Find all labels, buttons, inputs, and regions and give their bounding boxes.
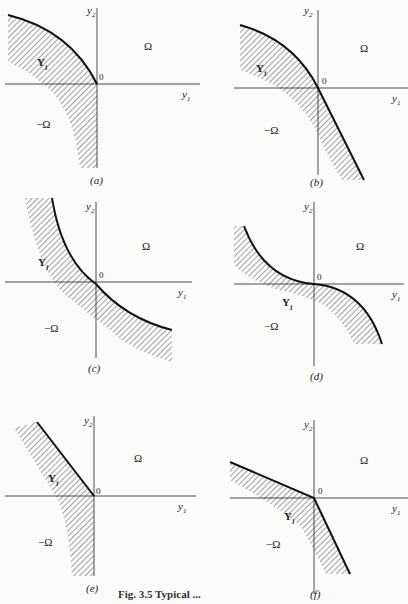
origin-label: 0: [318, 486, 323, 496]
origin-label: 0: [99, 270, 104, 280]
y1-axis-label: y1: [178, 500, 186, 515]
panel-caption: (a): [90, 174, 103, 186]
y2-axis-label: y2: [84, 414, 92, 429]
diagram-b: [204, 0, 408, 200]
panel-caption: (d): [310, 370, 323, 382]
y1-axis-label: y1: [392, 502, 400, 517]
diagram-a: [0, 0, 204, 200]
origin-label: 0: [322, 76, 327, 86]
panel-caption: (f): [310, 588, 320, 600]
neg-omega-label: −Ω: [266, 538, 280, 550]
origin-label: 0: [99, 72, 104, 82]
y2-axis-label: y2: [304, 200, 312, 215]
neg-omega-label: −Ω: [38, 536, 52, 548]
omega-label: Ω: [144, 40, 152, 52]
panel-b: y2 y1 0 Ω −Ω Yj (b): [204, 0, 408, 200]
omega-label: Ω: [142, 240, 150, 252]
diagram-d: [204, 190, 408, 390]
origin-label: 0: [96, 486, 101, 496]
set-label: Yj: [38, 256, 48, 271]
neg-omega-label: −Ω: [264, 320, 278, 332]
panel-c: y2 y1 0 Ω −Ω Yj (c): [0, 190, 204, 390]
set-label: Yj: [282, 296, 292, 311]
diagram-c: [0, 190, 204, 390]
omega-label: Ω: [360, 42, 368, 54]
panel-caption: (e): [86, 582, 98, 594]
y2-axis-label: y2: [304, 418, 312, 433]
y1-axis-label: y1: [182, 88, 190, 103]
y2-axis-label: y2: [86, 200, 94, 215]
neg-omega-label: −Ω: [36, 118, 50, 130]
panel-f: y2 y1 0 Ω −Ω Yj (f): [204, 400, 408, 600]
set-label: Yj: [48, 472, 58, 487]
neg-omega-label: −Ω: [264, 124, 278, 136]
set-label: Yj: [284, 510, 294, 525]
origin-label: 0: [317, 272, 322, 282]
y2-axis-label: y2: [87, 4, 95, 19]
set-label: Yj: [37, 56, 47, 71]
y1-axis-label: y1: [178, 286, 186, 301]
y2-axis-label: y2: [304, 4, 312, 19]
omega-label: Ω: [356, 240, 364, 252]
set-label: Yj: [256, 62, 266, 77]
neg-omega-label: −Ω: [44, 322, 58, 334]
panel-caption: (c): [88, 362, 100, 374]
panel-d: y2 y1 0 Ω −Ω Yj (d): [204, 190, 408, 390]
panel-a: y2 y1 0 Ω −Ω Yj (a): [0, 0, 204, 200]
y1-axis-label: y1: [392, 288, 400, 303]
panel-caption: (b): [310, 176, 323, 188]
figure-caption: Fig. 3.5 Typical ...: [118, 588, 201, 600]
omega-label: Ω: [360, 454, 368, 466]
diagram-e: [0, 400, 204, 600]
panel-e: y2 y1 0 Ω −Ω Yj (e): [0, 400, 204, 600]
omega-label: Ω: [134, 452, 142, 464]
y1-axis-label: y1: [392, 92, 400, 107]
